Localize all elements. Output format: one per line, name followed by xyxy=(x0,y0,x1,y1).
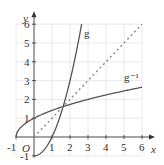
curve-g-inverse xyxy=(16,87,142,137)
y-tick-label: 3 xyxy=(24,75,30,87)
curve-label-g-inverse: g⁻¹ xyxy=(124,71,139,83)
y-axis-arrow-icon xyxy=(32,11,37,17)
x-tick-label: 3 xyxy=(85,141,91,153)
x-tick-label: -1 xyxy=(7,141,16,153)
y-axis-label: y xyxy=(22,12,28,24)
curve-label-g: g xyxy=(84,27,90,39)
series-group xyxy=(16,24,142,156)
x-tick-label: 2 xyxy=(67,141,73,153)
chart-container: -1123456-1123456 y x O g g⁻¹ xyxy=(0,0,164,165)
x-tick-label: 6 xyxy=(139,141,145,153)
curve-g xyxy=(34,24,82,156)
x-axis-arrow-icon xyxy=(149,135,155,140)
y-tick-label: 2 xyxy=(24,93,30,105)
function-inverse-plot: -1123456-1123456 y x O g g⁻¹ xyxy=(0,0,164,165)
y-tick-label: 5 xyxy=(24,37,30,49)
x-tick-label: 4 xyxy=(103,141,109,153)
x-tick-label: 5 xyxy=(121,141,127,153)
origin-label: O xyxy=(22,142,30,154)
x-tick-label: 1 xyxy=(49,141,55,153)
labels-group: y x O g g⁻¹ xyxy=(22,12,156,155)
x-axis-label: x xyxy=(150,143,156,155)
axes: -1123456-1123456 xyxy=(7,11,155,162)
y-tick-label: 4 xyxy=(24,56,30,68)
